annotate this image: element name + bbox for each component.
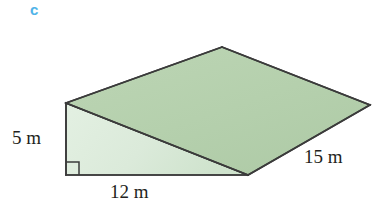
- figure-stage: c: [0, 0, 384, 215]
- dimension-label-height: 5 m: [12, 128, 41, 147]
- triangular-prism-figure: [0, 0, 384, 215]
- dimension-label-depth: 15 m: [304, 147, 343, 166]
- dimension-label-base: 12 m: [110, 182, 149, 201]
